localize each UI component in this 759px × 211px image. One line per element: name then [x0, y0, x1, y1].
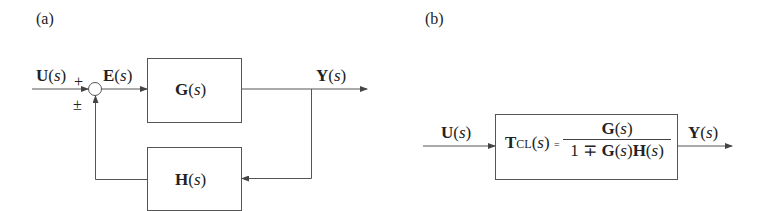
h-block-label: H(s) — [175, 171, 206, 188]
tcl-fraction: G(s) 1 ∓ G(s)H(s) — [563, 120, 671, 159]
tcl-lhs: TCL(s) = — [505, 134, 560, 151]
output-label-b: Y(s) — [688, 124, 718, 141]
diagram-lines — [0, 0, 759, 211]
summing-junction — [89, 83, 102, 96]
panel-b-label: (b) — [425, 11, 444, 27]
plus-minus-sign: ± — [73, 97, 82, 113]
input-label-a: U(s) — [36, 67, 66, 84]
feedback-path-right — [242, 89, 312, 179]
error-label: E(s) — [103, 67, 132, 84]
output-label-a: Y(s) — [316, 67, 346, 84]
plus-sign: + — [74, 74, 83, 90]
input-label-b: U(s) — [441, 124, 471, 141]
g-block-label: G(s) — [175, 81, 206, 98]
tcl-numerator: G(s) — [563, 120, 671, 140]
tcl-denominator: 1 ∓ G(s)H(s) — [563, 140, 671, 159]
panel-a-label: (a) — [36, 11, 54, 27]
feedback-path-left — [96, 96, 148, 180]
